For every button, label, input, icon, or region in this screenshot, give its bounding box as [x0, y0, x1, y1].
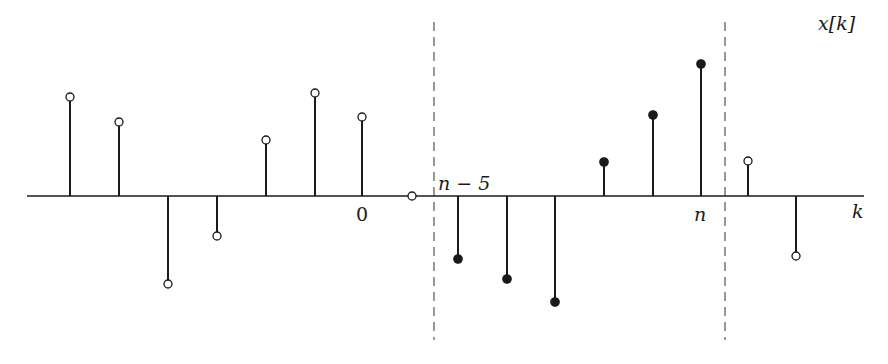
title-label: x[k]	[818, 12, 855, 34]
sample-stem	[408, 192, 416, 200]
sample-stem	[115, 118, 123, 196]
filled-sample-marker	[551, 298, 559, 306]
k-axis-label: k	[852, 200, 864, 222]
samples	[66, 60, 800, 306]
filled-sample-marker	[649, 111, 657, 119]
sample-stem	[600, 158, 608, 196]
tick-label-zero: 0	[356, 203, 368, 225]
sample-stem	[164, 196, 172, 288]
sample-stem	[66, 93, 74, 196]
hollow-sample-marker	[792, 252, 800, 260]
hollow-sample-marker	[164, 280, 172, 288]
sample-stem	[503, 196, 511, 283]
tick-label-n-minus-5: n − 5	[438, 172, 490, 194]
sample-stem	[262, 136, 270, 196]
hollow-sample-marker	[213, 232, 221, 240]
hollow-sample-marker	[358, 113, 366, 121]
tick-label-n: n	[694, 203, 706, 225]
sample-stem	[358, 113, 366, 196]
filled-sample-marker	[503, 275, 511, 283]
hollow-sample-marker	[262, 136, 270, 144]
hollow-sample-marker	[744, 157, 752, 165]
sample-stem	[649, 111, 657, 196]
hollow-sample-marker	[311, 89, 319, 97]
sample-stem	[792, 196, 800, 260]
sample-stem	[551, 196, 559, 306]
sample-stem	[744, 157, 752, 196]
filled-sample-marker	[697, 60, 705, 68]
hollow-sample-marker	[66, 93, 74, 101]
filled-sample-marker	[600, 158, 608, 166]
sample-stem	[454, 196, 462, 263]
sample-stem	[311, 89, 319, 196]
filled-sample-marker	[454, 255, 462, 263]
hollow-sample-marker	[115, 118, 123, 126]
hollow-sample-marker	[408, 192, 416, 200]
sample-stem	[213, 196, 221, 240]
sample-stem	[697, 60, 705, 196]
